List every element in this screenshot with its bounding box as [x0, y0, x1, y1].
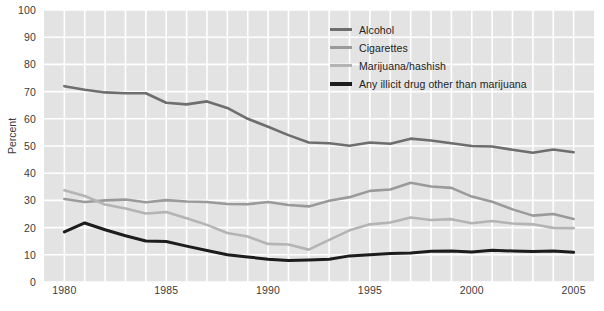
legend-swatch-icon: [330, 46, 352, 49]
y-tick-label: 10: [24, 249, 36, 261]
chart-container: 0102030405060708090100 19801985199019952…: [0, 0, 604, 311]
x-tick-label: 1990: [256, 284, 280, 296]
legend-item: Marijuana/hashish: [330, 58, 527, 73]
legend-item-label: Any illicit drug other than marijuana: [359, 78, 527, 90]
y-tick-label: 0: [30, 276, 36, 288]
y-tick-label: 100: [18, 4, 36, 16]
legend-swatch-icon: [330, 64, 352, 67]
legend-item-label: Alcohol: [359, 24, 394, 36]
y-tick-label: 40: [24, 167, 36, 179]
series-line: [64, 86, 573, 153]
legend-item: Any illicit drug other than marijuana: [330, 76, 527, 91]
legend-item: Cigarettes: [330, 40, 527, 55]
x-tick-label: 1995: [358, 284, 382, 296]
series-line: [64, 223, 573, 261]
y-tick-label: 30: [24, 194, 36, 206]
x-tick-label: 1985: [154, 284, 178, 296]
legend-item-label: Marijuana/hashish: [359, 60, 446, 72]
legend-swatch-icon: [330, 28, 352, 31]
x-tick-label: 2000: [460, 284, 484, 296]
legend-swatch-icon: [330, 82, 352, 86]
x-axis-tick-labels: 198019851990199520002005: [44, 284, 594, 304]
x-tick-label: 1980: [52, 284, 76, 296]
x-tick-label: 2005: [562, 284, 586, 296]
legend-item-label: Cigarettes: [359, 42, 408, 54]
y-tick-label: 80: [24, 58, 36, 70]
y-tick-label: 60: [24, 113, 36, 125]
y-tick-label: 50: [24, 140, 36, 152]
legend-item: Alcohol: [330, 22, 527, 37]
y-tick-label: 70: [24, 86, 36, 98]
y-tick-label: 90: [24, 31, 36, 43]
y-tick-label: 20: [24, 222, 36, 234]
y-axis-title: Percent: [6, 106, 18, 166]
chart-legend: AlcoholCigarettesMarijuana/hashishAny il…: [330, 22, 527, 91]
